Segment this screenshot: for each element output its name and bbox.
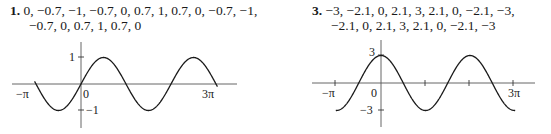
graphs-canvas: 1 −1 0 −π 3π 3 −3 0 −π 3π	[0, 0, 551, 134]
graph-3-label-origin: 0	[371, 86, 377, 100]
graph-3-label-ymax: 3	[369, 45, 375, 59]
graph-1-label-xmin: −π	[16, 87, 29, 101]
graph-1-label-origin: 0	[83, 87, 89, 101]
graph-1-label-ymin: −1	[86, 103, 99, 117]
graph-3-label-xmin: −π	[322, 86, 335, 100]
graph-3-label-xmax: 3π	[508, 86, 520, 100]
graph-1-label-xmax: 3π	[202, 87, 214, 101]
graph-1: 1 −1 0 −π 3π	[12, 42, 237, 128]
graph-3-label-ymin: −3	[360, 103, 373, 117]
graph-1-label-ymax: 1	[69, 50, 75, 64]
graph-3: 3 −3 0 −π 3π	[312, 40, 535, 127]
